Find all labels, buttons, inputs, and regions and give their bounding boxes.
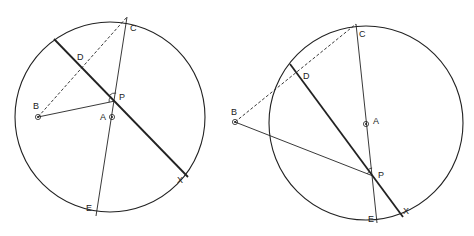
left-chord-dx bbox=[54, 39, 188, 177]
right-point-b-center bbox=[234, 121, 236, 123]
right-label-p: P bbox=[378, 170, 384, 180]
left-point-a-center bbox=[111, 116, 113, 118]
right-point-a-center bbox=[365, 123, 367, 125]
right-dashed-bc bbox=[235, 24, 356, 122]
right-chord-dx bbox=[290, 64, 403, 217]
left-label-d: D bbox=[77, 52, 84, 62]
geometry-diagram: CDBPAEXCDBPAEX bbox=[0, 0, 474, 236]
left-point-b-center bbox=[37, 116, 39, 118]
right-label-a: A bbox=[373, 116, 379, 126]
left-label-p: P bbox=[119, 92, 125, 102]
left-angle-bpd-mark bbox=[109, 97, 111, 102]
left-label-e: E bbox=[86, 203, 92, 213]
right-label-e: E bbox=[368, 214, 374, 224]
left-label-c: C bbox=[130, 23, 137, 33]
right-label-d: D bbox=[303, 71, 310, 81]
left-label-b: B bbox=[33, 101, 39, 111]
right-label-b: B bbox=[231, 107, 237, 117]
right-label-x: X bbox=[403, 206, 409, 216]
left-label-x: X bbox=[177, 175, 183, 185]
left-label-a: A bbox=[100, 112, 106, 122]
right-label-c: C bbox=[359, 29, 366, 39]
